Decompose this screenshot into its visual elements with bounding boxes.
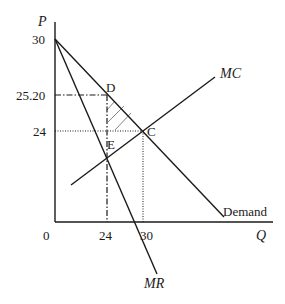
demand-label: Demand [223, 204, 268, 219]
demand-curve [55, 39, 224, 217]
y-axis-label: P [37, 14, 47, 29]
mr-label: MR [143, 276, 165, 291]
y-tick-30: 30 [32, 32, 45, 47]
y-tick-25-20: 25.20 [16, 88, 45, 103]
point-c-label: C [147, 124, 156, 139]
x-tick-24: 24 [99, 228, 113, 243]
x-axis-label: Q [256, 228, 266, 243]
origin-label: 0 [43, 228, 50, 243]
mc-label: MC [219, 66, 242, 81]
monopoly-diagram: P Q 0 30 25.20 24 24 30 Demand MR MC D C… [0, 0, 285, 304]
point-d-label: D [106, 80, 115, 95]
x-tick-30: 30 [140, 228, 153, 243]
point-e-label: E [107, 137, 115, 152]
axes [55, 22, 273, 222]
y-tick-24: 24 [33, 124, 47, 139]
